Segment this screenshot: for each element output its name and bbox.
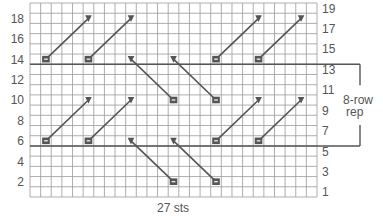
row-number-right: 1 bbox=[322, 185, 329, 199]
cable-line bbox=[88, 18, 131, 59]
left-row-numbers: 24681012141618 bbox=[11, 12, 25, 189]
row-number-left: 10 bbox=[11, 93, 25, 107]
row-number-right: 17 bbox=[322, 22, 336, 36]
row-number-left: 2 bbox=[17, 175, 24, 189]
cable-line bbox=[174, 59, 217, 100]
row-number-right: 15 bbox=[322, 42, 336, 56]
cable-line bbox=[259, 18, 302, 59]
cable-line bbox=[216, 100, 259, 141]
row-number-left: 18 bbox=[11, 12, 25, 26]
row-number-right: 13 bbox=[322, 63, 336, 77]
cable-line bbox=[88, 100, 131, 141]
row-number-left: 16 bbox=[11, 32, 25, 46]
right-row-numbers: 135791113151719 bbox=[322, 2, 336, 200]
row-number-left: 4 bbox=[17, 155, 24, 169]
cable-line bbox=[174, 141, 217, 182]
cable-line bbox=[46, 100, 89, 141]
row-number-left: 14 bbox=[11, 53, 25, 67]
row-number-left: 6 bbox=[17, 134, 24, 148]
row-number-right: 11 bbox=[322, 83, 335, 97]
cable-line bbox=[46, 18, 89, 59]
stitch-symbols bbox=[42, 15, 304, 185]
row-number-right: 5 bbox=[322, 145, 329, 159]
cable-line bbox=[131, 59, 174, 100]
row-number-left: 8 bbox=[17, 114, 24, 128]
repeat-label-line2: rep bbox=[346, 105, 364, 119]
stitch-count-label: 27 sts bbox=[157, 201, 189, 215]
row-number-right: 19 bbox=[322, 2, 336, 16]
knitting-chart: 24681012141618 135791113151719 27 sts 8-… bbox=[0, 0, 383, 218]
cable-line bbox=[259, 100, 302, 141]
row-number-right: 9 bbox=[322, 104, 329, 118]
cable-line bbox=[131, 141, 174, 182]
row-number-left: 12 bbox=[11, 73, 25, 87]
row-number-right: 7 bbox=[322, 124, 329, 138]
row-number-right: 3 bbox=[322, 165, 329, 179]
cable-line bbox=[216, 18, 259, 59]
